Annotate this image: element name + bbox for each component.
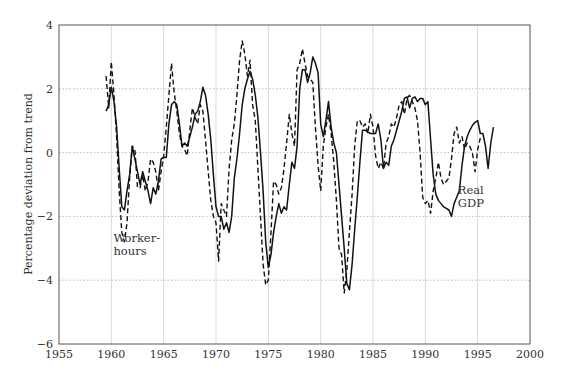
x-tick-label: 1975 [254, 348, 282, 361]
y-tick-label: −2 [37, 210, 53, 223]
y-axis-ticks: −6−4−2024 [37, 19, 53, 351]
x-tick-label: 1990 [411, 348, 439, 361]
annotations: Worker-hoursRealGDP [113, 183, 484, 258]
y-tick-label: −4 [37, 274, 53, 287]
real-gdp-line [106, 57, 493, 290]
y-tick-label: 2 [46, 83, 53, 96]
y-tick-label: −6 [37, 338, 53, 351]
x-tick-label: 1995 [464, 348, 492, 361]
worker-hours-annotation: Worker-hours [113, 231, 160, 258]
x-axis-ticks: 1955196019651970197519801985199019952000 [45, 348, 544, 361]
series-layer [106, 41, 493, 293]
x-tick-label: 1965 [150, 348, 178, 361]
x-tick-label: 1980 [307, 348, 335, 361]
real-gdp-annotation: RealGDP [458, 183, 484, 210]
x-tick-label: 1970 [202, 348, 230, 361]
y-axis-label: Percentage deviation from trend [22, 93, 35, 275]
y-tick-label: 0 [46, 147, 53, 160]
x-tick-label: 1960 [97, 348, 125, 361]
y-tick-label: 4 [46, 19, 53, 32]
x-tick-label: 2000 [516, 348, 544, 361]
chart: 1955196019651970197519801985199019952000… [0, 0, 563, 384]
x-tick-label: 1985 [359, 348, 387, 361]
